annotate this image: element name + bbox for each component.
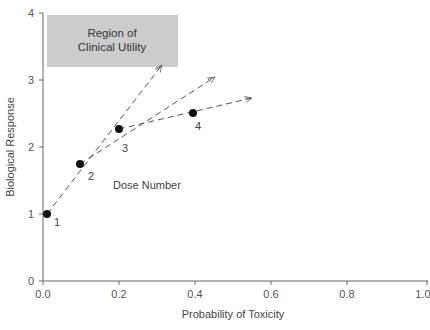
dose-point-3 [115, 125, 123, 133]
svg-text:2: 2 [28, 141, 34, 153]
region-label-line2: Clinical Utility [78, 41, 147, 53]
y-tick-labels: 0 1 2 3 4 [28, 7, 34, 287]
svg-text:0.0: 0.0 [35, 288, 50, 300]
clinical-utility-region: Region of Clinical Utility [47, 15, 178, 67]
trend-arrows [47, 65, 252, 214]
dose-point-4 [189, 109, 197, 117]
svg-text:2: 2 [88, 170, 94, 182]
x-tick-labels: 0.0 0.2 0.4 0.6 0.8 1.0 [35, 288, 430, 300]
trend-arrow-1 [47, 65, 162, 214]
svg-text:0.8: 0.8 [339, 288, 354, 300]
dose-point-labels: 1 2 3 4 [54, 120, 201, 228]
svg-text:3: 3 [122, 142, 128, 154]
svg-text:3: 3 [28, 74, 34, 86]
svg-text:4: 4 [195, 120, 201, 132]
svg-text:1: 1 [54, 216, 60, 228]
x-axis [43, 281, 428, 285]
trend-arrow-3 [119, 98, 252, 129]
dose-point-1 [43, 210, 51, 218]
dose-points [43, 109, 197, 218]
chart: Region of Clinical Utility 0 1 2 3 4 0.0… [0, 0, 430, 330]
dose-number-label: Dose Number [113, 179, 181, 191]
svg-text:4: 4 [28, 7, 34, 19]
svg-text:0.2: 0.2 [111, 288, 126, 300]
region-label-line1: Region of [87, 27, 137, 39]
svg-text:0.4: 0.4 [187, 288, 202, 300]
svg-text:1.0: 1.0 [415, 288, 430, 300]
svg-text:0.6: 0.6 [263, 288, 278, 300]
svg-text:0: 0 [28, 275, 34, 287]
y-axis [39, 13, 43, 281]
svg-text:1: 1 [28, 208, 34, 220]
y-axis-title: Biological Response [4, 97, 16, 197]
dose-point-2 [76, 160, 84, 168]
x-axis-title: Probability of Toxicity [182, 308, 285, 320]
